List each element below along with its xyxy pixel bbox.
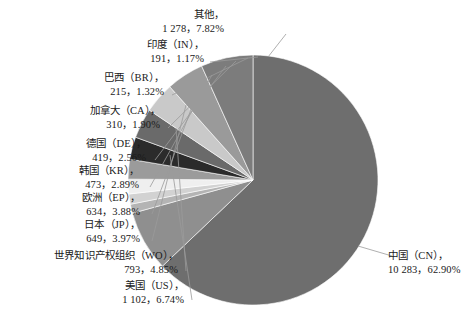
pie-slice-label-value: 310，1.90%	[0, 118, 160, 132]
pie-slice-label-name: 其他，	[0, 8, 224, 22]
pie-slice-label-value: 793，4.85%	[0, 263, 178, 277]
pie-slice-label: 欧洲（EP），634，3.88%	[0, 191, 140, 218]
pie-slice-label-value: 1 278，7.82%	[0, 22, 224, 36]
pie-slice-label-name: 韩国（KR），	[0, 164, 139, 178]
pie-slice-label: 德国（DE），419，2.56%	[0, 137, 146, 164]
pie-slice-label-value: 215，1.32%	[0, 85, 164, 99]
pie-slice-label-value: 634，3.88%	[0, 205, 140, 219]
pie-slice-label-value: 1 102，6.74%	[0, 293, 184, 307]
pie-slice-label: 世界知识产权组织（WO），793，4.85%	[0, 249, 178, 276]
pie-slice-label-name: 中国（CN），	[388, 249, 461, 263]
pie-slice-label: 中国（CN），10 283，62.90%	[388, 249, 461, 276]
pie-slice-label: 加拿大（CA），310，1.90%	[0, 104, 160, 131]
pie-slice-label-name: 美国（US），	[0, 279, 184, 293]
leader-line	[268, 34, 286, 57]
pie-slice-label-name: 加拿大（CA），	[0, 104, 160, 118]
pie-slice-label-value: 191，1.17%	[0, 52, 204, 66]
pie-slice-label: 巴西（BR），215，1.32%	[0, 71, 164, 98]
leader-line	[358, 246, 392, 256]
pie-slice-label-name: 世界知识产权组织（WO），	[0, 249, 178, 263]
pie-chart-figure: 中国（CN），10 283，62.90%其他，1 278，7.82%印度（IN）…	[0, 0, 476, 331]
pie-slice-label-value: 649，3.97%	[0, 232, 140, 246]
pie-slice-label-value: 473，2.89%	[0, 178, 139, 192]
pie-slice-label-name: 印度（IN），	[0, 38, 204, 52]
pie-slice-label: 韩国（KR），473，2.89%	[0, 164, 139, 191]
pie-slice-label-name: 日本（JP），	[0, 218, 140, 232]
pie-slice-label-value: 419，2.56%	[0, 151, 146, 165]
pie-slice-label: 美国（US），1 102，6.74%	[0, 279, 184, 306]
pie-slice-label: 日本（JP），649，3.97%	[0, 218, 140, 245]
pie-slice-label-name: 德国（DE），	[0, 137, 146, 151]
pie-slice-label-value: 10 283，62.90%	[388, 263, 461, 277]
pie-slice-label: 其他，1 278，7.82%	[0, 8, 224, 35]
pie-slice-label-name: 欧洲（EP），	[0, 191, 140, 205]
pie-slice-label: 印度（IN），191，1.17%	[0, 38, 204, 65]
pie-slice-label-name: 巴西（BR），	[0, 71, 164, 85]
